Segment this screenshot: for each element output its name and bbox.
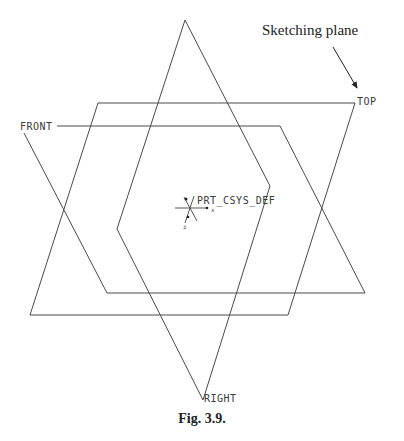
- z-axis-label: z: [183, 223, 187, 230]
- sketching-plane-annotation: Sketching plane: [262, 22, 358, 39]
- x-axis-label: x: [211, 206, 215, 213]
- front-datum-plane[interactable]: [24, 126, 365, 293]
- csys-label: PRT_CSYS_DEF: [197, 195, 275, 207]
- top-datum-plane[interactable]: [30, 103, 355, 315]
- right-plane-label: RIGHT: [204, 393, 237, 404]
- right-datum-plane[interactable]: [117, 20, 270, 400]
- front-plane-label: FRONT: [20, 121, 53, 132]
- datum-planes-diagram: FRONT TOP RIGHT x z PRT_CSYS_DEF: [0, 0, 404, 441]
- top-plane-label: TOP: [357, 96, 377, 107]
- annotation-arrow: [333, 47, 357, 88]
- figure-caption: Fig. 3.9.: [0, 411, 404, 427]
